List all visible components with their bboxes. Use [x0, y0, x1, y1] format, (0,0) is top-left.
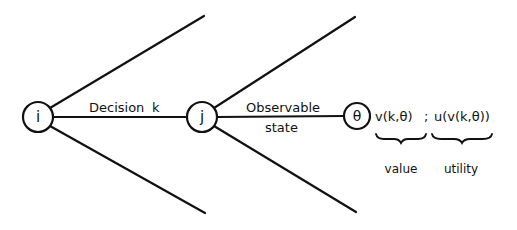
utility-caption: utility	[444, 162, 478, 176]
decision-label: Decision	[89, 100, 144, 115]
value-underbrace	[376, 134, 426, 143]
node-theta-label: θ	[353, 108, 362, 124]
value-expression: v(k,θ)	[375, 109, 412, 124]
decision-tree-diagram: i j θ Decision k Observable state v(k,θ)…	[0, 0, 517, 230]
value-caption: value	[385, 162, 418, 176]
node-i: i	[23, 102, 53, 132]
node-theta: θ	[344, 103, 370, 129]
decision-variable-label: k	[152, 100, 160, 115]
utility-expression: u(v(k,θ))	[434, 109, 490, 124]
edge-j-lower-branch	[214, 126, 356, 212]
formula-separator: ;	[424, 109, 428, 124]
node-i-label: i	[36, 108, 40, 126]
edge-j-to-theta	[217, 116, 344, 117]
edge-j-upper-branch	[214, 17, 355, 108]
node-j: j	[187, 102, 217, 132]
observable-state-label-line2: state	[265, 120, 298, 135]
utility-underbrace	[432, 134, 492, 143]
edge-i-upper-branch	[50, 16, 204, 108]
edge-i-lower-branch	[50, 126, 205, 213]
observable-state-label-line1: Observable	[246, 100, 320, 115]
node-j-label: j	[199, 108, 204, 126]
